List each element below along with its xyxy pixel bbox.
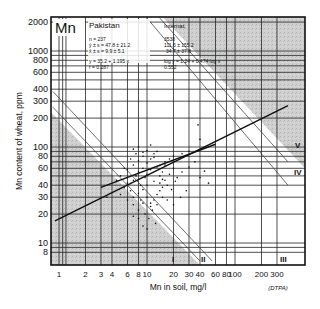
data-point bbox=[164, 179, 166, 181]
y-tick-label: 600 bbox=[33, 67, 48, 77]
data-point bbox=[146, 162, 148, 164]
x-tick-label: 100 bbox=[228, 270, 242, 279]
x-tick-label: 20 bbox=[169, 270, 178, 279]
intl-x-mean: 34.7 ± 37.8 bbox=[166, 48, 191, 54]
data-point bbox=[173, 204, 175, 206]
excess-region bbox=[162, 17, 305, 168]
data-point bbox=[142, 225, 144, 227]
regression-line-pakistan bbox=[101, 144, 215, 187]
data-point bbox=[142, 156, 144, 158]
data-point bbox=[133, 179, 135, 181]
data-point bbox=[133, 196, 135, 198]
deficiency-region bbox=[51, 112, 200, 265]
zone-label-V: V bbox=[295, 141, 301, 150]
data-point bbox=[166, 184, 168, 186]
data-point bbox=[135, 153, 137, 155]
data-point bbox=[146, 196, 148, 198]
y-tick-label: 1000 bbox=[28, 46, 48, 56]
data-point bbox=[150, 144, 152, 146]
y-tick-label: 60 bbox=[38, 163, 48, 173]
x-tick-label: 30 bbox=[185, 270, 194, 279]
data-point bbox=[156, 151, 158, 153]
y-tick-label: 300 bbox=[33, 96, 48, 106]
data-point bbox=[120, 175, 122, 177]
data-point bbox=[186, 190, 188, 192]
data-point bbox=[162, 171, 164, 173]
data-point bbox=[188, 166, 190, 168]
data-point bbox=[152, 209, 154, 211]
data-point bbox=[199, 177, 201, 179]
data-point bbox=[133, 204, 135, 206]
data-point bbox=[153, 180, 155, 182]
data-point bbox=[181, 153, 183, 155]
data-point bbox=[150, 158, 152, 160]
data-point bbox=[159, 190, 161, 192]
data-point bbox=[153, 199, 155, 201]
data-point bbox=[162, 187, 164, 189]
data-point bbox=[150, 202, 152, 204]
data-point bbox=[169, 173, 171, 175]
data-point bbox=[146, 228, 148, 230]
country-stats: Pakistan n = 237 ȳ ± s = 47.8 ± 21.2 x̄ … bbox=[88, 19, 150, 70]
x-tick-label: 60 bbox=[211, 270, 220, 279]
data-point bbox=[138, 146, 140, 148]
mn-scatter-chart: Mn Pakistan n = 237 ȳ ± s = 47.8 ± 21.2 … bbox=[0, 0, 320, 309]
data-point bbox=[144, 213, 146, 215]
data-point bbox=[142, 189, 144, 191]
x-tick-label: 200 bbox=[255, 270, 269, 279]
data-point bbox=[159, 182, 161, 184]
data-point bbox=[138, 218, 140, 220]
x-axis-tick-labels: 123468102030406080100200300 bbox=[57, 270, 284, 279]
data-point bbox=[138, 209, 140, 211]
y-tick-label: 2000 bbox=[28, 17, 48, 27]
data-point bbox=[166, 199, 168, 201]
data-point bbox=[153, 153, 155, 155]
data-point bbox=[140, 184, 142, 186]
data-point bbox=[133, 164, 135, 166]
data-point bbox=[162, 179, 164, 181]
data-point bbox=[155, 223, 157, 225]
data-point bbox=[120, 194, 122, 196]
data-point bbox=[133, 148, 135, 150]
y-tick-label: 10 bbox=[38, 238, 48, 248]
data-point bbox=[173, 156, 175, 158]
y-axis-tick-labels: 810203040608010020030040060080010002000 bbox=[28, 17, 48, 257]
intl-r: 0.552 bbox=[164, 64, 177, 70]
data-point bbox=[123, 167, 125, 169]
data-point bbox=[181, 171, 183, 173]
element-symbol: Mn bbox=[55, 19, 76, 36]
x-axis-label: Mn in soil, mg/l bbox=[150, 282, 207, 292]
data-point bbox=[188, 151, 190, 153]
data-point bbox=[194, 161, 196, 163]
x-tick-label: 300 bbox=[270, 270, 284, 279]
x-tick-label: 40 bbox=[196, 270, 205, 279]
country-x-mean: x̄ ± s = 9.9 ± 5.1 bbox=[89, 48, 125, 54]
data-point bbox=[140, 199, 142, 201]
data-point bbox=[159, 175, 161, 177]
y-axis-label: Mn content of wheat, ppm bbox=[14, 92, 24, 190]
data-point bbox=[162, 196, 164, 198]
data-point bbox=[180, 196, 182, 198]
data-point bbox=[135, 175, 137, 177]
data-point bbox=[142, 152, 144, 154]
x-tick-label: 4 bbox=[110, 270, 115, 279]
x-tick-label: 10 bbox=[143, 270, 152, 279]
data-point bbox=[176, 177, 178, 179]
x-tick-label: 1 bbox=[57, 270, 62, 279]
data-point bbox=[156, 194, 158, 196]
data-point bbox=[204, 170, 206, 172]
data-point bbox=[130, 190, 132, 192]
data-point bbox=[127, 182, 129, 184]
zone-label-I: I bbox=[172, 255, 174, 264]
y-tick-label: 40 bbox=[38, 180, 48, 190]
data-point bbox=[171, 189, 173, 191]
data-point bbox=[146, 184, 148, 186]
data-point bbox=[156, 204, 158, 206]
data-point bbox=[142, 167, 144, 169]
y-tick-label: 8 bbox=[43, 247, 48, 257]
x-tick-label: 6 bbox=[125, 270, 130, 279]
data-point bbox=[142, 202, 144, 204]
data-point bbox=[208, 182, 210, 184]
data-point bbox=[199, 139, 201, 141]
data-point bbox=[127, 199, 129, 201]
